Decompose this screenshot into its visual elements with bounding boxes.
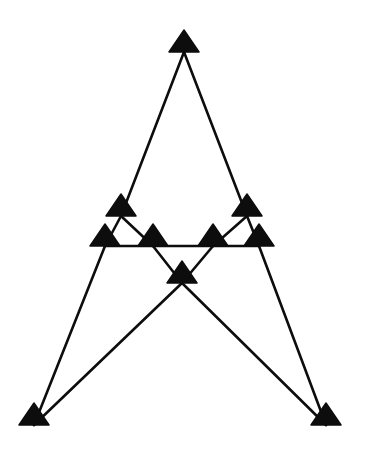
diagram-canvas: [0, 0, 365, 455]
graph-svg: [0, 0, 365, 455]
canvas-background: [0, 0, 365, 455]
